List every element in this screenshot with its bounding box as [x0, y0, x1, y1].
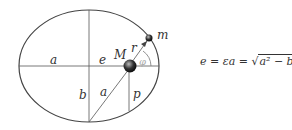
formula-epsilon-a: εa: [223, 55, 235, 68]
label-b: b: [79, 88, 87, 102]
label-a-left: a: [50, 53, 57, 67]
ellipse-diagram: a e M m r φ b a p: [0, 0, 200, 130]
label-phi: φ: [139, 56, 146, 67]
formula-radicand: a² − b²: [258, 54, 292, 68]
radius-arrowhead: [141, 41, 147, 47]
label-m: m: [157, 28, 168, 42]
label-r: r: [131, 41, 138, 55]
focal-line-a: [89, 69, 129, 122]
label-e: e: [99, 53, 106, 67]
label-a-diag: a: [100, 85, 107, 99]
label-p: p: [133, 87, 141, 101]
eccentricity-formula: e = εa = √a² − b²: [200, 55, 292, 68]
label-M: M: [113, 48, 127, 62]
orbiting-mass-m: [146, 35, 153, 42]
